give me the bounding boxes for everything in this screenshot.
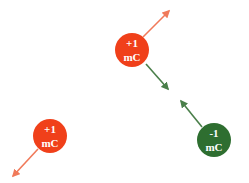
- force-arrow-bottom-left-repulsion-icon: [13, 149, 38, 176]
- charge-value: +1: [126, 37, 138, 49]
- charge-unit: mC: [205, 141, 222, 153]
- charge-value: -1: [209, 127, 218, 139]
- charge-bottom-left: +1 mC: [33, 119, 67, 153]
- charge-bottom-right: -1 mC: [197, 123, 231, 157]
- charge-unit: mC: [41, 137, 58, 149]
- force-arrow-top-repulsion-icon: [143, 11, 169, 37]
- charge-top: +1 mC: [115, 33, 149, 67]
- charge-force-diagram: +1 mC +1 mC -1 mC: [0, 0, 249, 183]
- charge-unit: mC: [123, 51, 140, 63]
- force-arrow-bottom-right-attraction-icon: [181, 101, 202, 127]
- charge-value: +1: [44, 123, 56, 135]
- force-arrows: [13, 11, 202, 176]
- force-arrow-top-attraction-icon: [146, 64, 168, 89]
